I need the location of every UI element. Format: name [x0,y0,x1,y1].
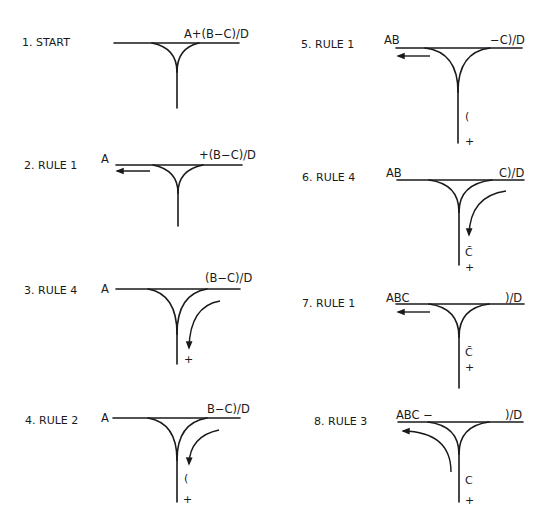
panel-2-rule-1: 2. RULE 1 A +(B−C)/D [24,148,256,226]
input-expression: −C)/D [490,33,525,47]
railway-shunting-diagram: 1. START A+(B−C)/D 2. RULE 1 A +(B−C)/D … [0,0,552,523]
input-expression: )/D [505,408,522,422]
panel-5-rule-1: 5. RULE 1 AB −C)/D ( + [301,33,525,148]
step-label: 6. RULE 4 [302,171,355,184]
arrow-down-curve-icon [469,191,506,235]
input-expression: C)/D [499,166,524,180]
arrow-up-left-curve-icon [403,431,451,472]
stack-item: C̄ [465,246,473,259]
stack-item: + [465,135,474,148]
output-expression: ABC − [396,408,433,422]
stack-item: C [465,474,473,487]
input-expression: )/D [505,291,522,305]
output-expression: AB [384,33,400,47]
junction-right-curve [177,43,199,72]
junction-right-curve [459,304,489,337]
junction-right-curve [458,48,490,92]
step-label: 7. RULE 1 [302,297,355,310]
step-label: 8. RULE 3 [314,415,367,428]
junction-left-curve [148,289,177,334]
stack-item: + [465,361,474,374]
junction-left-curve [152,43,177,72]
stack-item: + [465,494,474,507]
junction-right-curve [459,422,489,454]
output-expression: ABC [386,291,410,305]
input-expression: (B−C)/D [205,271,252,285]
stack-item: ( [465,110,469,123]
junction-left-curve [425,48,458,92]
input-expression: B−C)/D [207,402,250,416]
output-expression: AB [386,166,402,180]
input-expression: +(B−C)/D [199,148,256,162]
stack-item: + [183,493,192,506]
step-label: 1. START [22,36,70,49]
output-expression: A [101,411,109,425]
step-label: 5. RULE 1 [301,38,354,51]
arrow-down-curve-icon [189,301,220,348]
arrow-down-curve-icon [189,430,219,464]
panel-4-rule-2: 4. RULE 2 A B−C)/D ( + [25,402,250,506]
junction-left-curve [429,304,459,337]
junction-left-curve [429,180,459,212]
panel-8-rule-3: 8. RULE 3 ABC − )/D C + [314,408,523,507]
step-label: 2. RULE 1 [24,159,77,172]
panel-6-rule-4: 6. RULE 4 AB C)/D C̄ + [302,166,524,274]
panel-7-rule-1: 7. RULE 1 ABC )/D C̄ + [302,291,524,388]
stack-item: C̄ [465,346,473,359]
panel-1-start: 1. START A+(B−C)/D [22,27,249,108]
step-label: 3. RULE 4 [24,284,77,297]
step-label: 4. RULE 2 [25,414,78,427]
junction-left-curve [148,418,177,460]
junction-right-curve [177,418,207,460]
input-expression: A+(B−C)/D [184,27,249,41]
stack-item: ( [184,472,188,485]
junction-right-curve [459,180,492,212]
output-expression: A [101,152,109,166]
stack-item: + [184,353,193,366]
stack-item: + [465,261,474,274]
panel-3-rule-4: 3. RULE 4 A (B−C)/D + [24,271,252,366]
junction-left-curve [153,165,178,193]
output-expression: A [101,282,109,296]
junction-right-curve [178,165,203,193]
